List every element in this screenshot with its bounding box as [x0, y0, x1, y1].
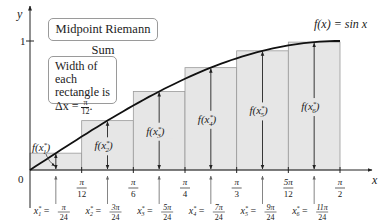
- midpoint-label: x*3 =: [136, 205, 153, 217]
- midpoint-denominator: 24: [163, 213, 171, 222]
- x-tick-numerator: π: [183, 177, 188, 187]
- x-tick-numerator: π: [338, 177, 343, 187]
- y-tick-label: 1: [20, 35, 26, 47]
- x-tick-denominator: 6: [131, 189, 136, 199]
- midpoint-label: x*5 =: [240, 205, 257, 217]
- x-tick-denominator: 2: [338, 189, 343, 199]
- origin-label: 0: [18, 173, 24, 185]
- midpoint-denominator: 24: [215, 213, 223, 222]
- midpoint-label: x*4 =: [188, 205, 205, 217]
- midpoint-numerator: 9π: [266, 203, 275, 212]
- x-tick-numerator: π: [131, 177, 136, 187]
- dx-prefix: Δx =: [55, 99, 81, 113]
- x-tick-numerator: 5π: [284, 177, 294, 187]
- midpoint-denominator: 24: [112, 213, 120, 222]
- midpoint-label: x*2 =: [85, 205, 102, 217]
- midpoint-label: x*6 =: [291, 205, 308, 217]
- note-line-1: Width of each: [55, 60, 116, 86]
- midpoint-label: x*1 =: [33, 205, 50, 217]
- note-line-3: Δx = π12.: [55, 99, 116, 116]
- midpoint-denominator: 24: [267, 213, 275, 222]
- midpoint-numerator: 5π: [163, 203, 172, 212]
- chart-title-box: Midpoint Riemann Sum: [48, 18, 158, 41]
- midpoint-numerator: 7π: [215, 203, 224, 212]
- width-note-box: Width of each rectangle is Δx = π12.: [48, 56, 117, 104]
- x-tick-denominator: 3: [234, 189, 239, 199]
- x-axis-label: x: [371, 173, 378, 187]
- x-tick-numerator: π: [234, 177, 239, 187]
- midpoint-numerator: 11π: [316, 203, 328, 212]
- x-tick-denominator: 4: [183, 189, 188, 199]
- midpoint-denominator: 24: [60, 213, 68, 222]
- x-tick-denominator: 12: [284, 189, 293, 199]
- x-tick-numerator: π: [79, 177, 84, 187]
- y-axis-label: y: [16, 7, 23, 21]
- midpoint-numerator: π: [62, 203, 67, 212]
- midpoint-denominator: 24: [318, 213, 326, 222]
- function-label: f(x) = sin x: [314, 17, 368, 31]
- dx-suffix: .: [89, 99, 92, 113]
- midpoint-numerator: 3π: [110, 203, 120, 212]
- x-tick-denominator: 12: [77, 189, 86, 199]
